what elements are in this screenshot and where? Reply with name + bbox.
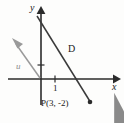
vector-arrow-accent-icon: [16, 62, 124, 123]
y-axis-label: y: [30, 3, 34, 13]
vector-u-label: u: [16, 62, 21, 71]
math-figure: y x D 1 P(3, -2) u: [0, 0, 124, 123]
vector-u-glyph-wrap: u: [16, 62, 21, 71]
line-d-label: D: [68, 44, 75, 54]
